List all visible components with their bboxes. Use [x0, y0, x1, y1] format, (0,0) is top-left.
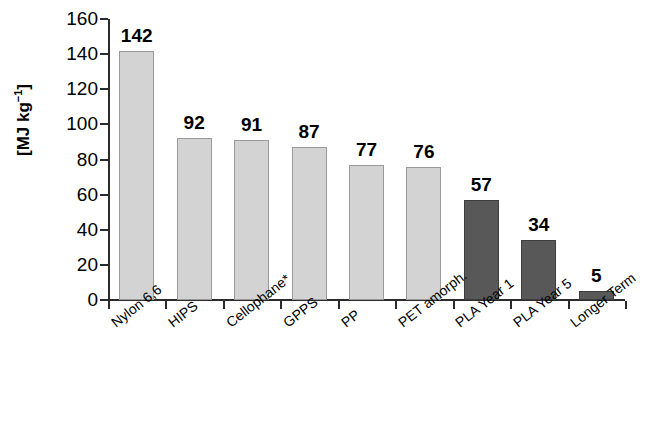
- x-axis-tick: [280, 301, 282, 309]
- x-axis-tick: [108, 301, 110, 309]
- bar: [177, 138, 212, 300]
- bar-value-label: 77: [337, 140, 397, 159]
- x-axis-tick: [625, 301, 627, 309]
- y-axis-title: [MJ kg−1]: [14, 50, 34, 190]
- y-axis-tick: [100, 264, 108, 266]
- y-axis-title-prefix: [MJ kg: [14, 102, 33, 156]
- y-axis-tick-label: 80: [36, 150, 98, 169]
- x-axis-category-label: HIPS: [165, 298, 201, 331]
- x-axis-tick: [223, 301, 225, 309]
- y-axis-tick-label: 120: [36, 79, 98, 98]
- y-axis-tick: [100, 159, 108, 161]
- bar: [119, 51, 154, 300]
- x-axis-tick: [453, 301, 455, 309]
- y-axis-title-exponent: −1: [12, 90, 24, 103]
- bar: [406, 167, 441, 300]
- y-axis-tick: [100, 18, 108, 20]
- bar: [349, 165, 384, 300]
- y-axis-tick: [100, 53, 108, 55]
- bar-value-label: 91: [222, 115, 282, 134]
- y-axis-tick: [100, 123, 108, 125]
- y-axis-tick-label: 40: [36, 220, 98, 239]
- y-axis-tick-label: 160: [36, 9, 98, 28]
- bar-value-label: 142: [107, 26, 167, 45]
- y-axis-title-suffix: ]: [14, 84, 33, 90]
- y-axis-tick: [100, 229, 108, 231]
- x-axis-tick: [338, 301, 340, 309]
- y-axis-tick-label: 0: [36, 290, 98, 309]
- y-axis-tick: [100, 88, 108, 90]
- y-axis-tick-label: 100: [36, 114, 98, 133]
- bar-value-label: 57: [451, 175, 511, 194]
- bar: [292, 147, 327, 300]
- x-axis-tick: [510, 301, 512, 309]
- bar-value-label: 34: [509, 215, 569, 234]
- y-axis-tick-label: 140: [36, 44, 98, 63]
- y-axis-tick: [100, 299, 108, 301]
- y-axis-tick: [100, 194, 108, 196]
- y-axis-tick-label: 20: [36, 255, 98, 274]
- bar-value-label: 92: [164, 113, 224, 132]
- y-axis-tick-label: 60: [36, 185, 98, 204]
- bar: [234, 140, 269, 300]
- bar-chart: [MJ kg−1] 020406080100120140160 14292918…: [0, 0, 650, 428]
- bar-value-label: 76: [394, 142, 454, 161]
- x-axis-tick: [395, 301, 397, 309]
- bar-value-label: 87: [279, 122, 339, 141]
- x-axis-tick: [568, 301, 570, 309]
- x-axis-tick: [165, 301, 167, 309]
- x-axis-category-label: PP: [338, 306, 363, 330]
